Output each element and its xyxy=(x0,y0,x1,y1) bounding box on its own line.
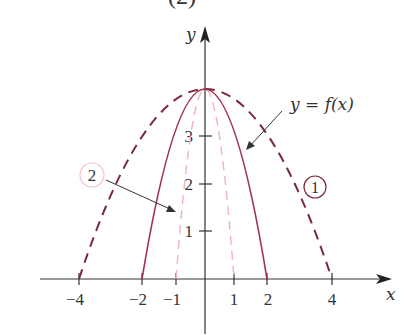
fx-pointer-line xyxy=(250,111,282,146)
xtick-label: −2 xyxy=(129,290,147,309)
ytick-label: 3 xyxy=(185,127,194,146)
circle-1-label: 1 xyxy=(311,179,319,196)
partial-header-label: (2) xyxy=(168,0,196,9)
x-tick-labels: −4 −2 −1 1 2 4 xyxy=(66,290,337,309)
chart: (2) −4 −2 −1 1 2 4 1 2 3 x y xyxy=(0,0,409,335)
xtick-label: −4 xyxy=(66,290,85,309)
x-axis-label: x xyxy=(386,284,396,304)
ytick-label: 1 xyxy=(185,222,194,241)
circle-2-pointer-arrow-icon xyxy=(166,205,176,212)
xtick-label: −1 xyxy=(163,290,181,309)
xtick-label: 2 xyxy=(264,290,273,309)
xtick-label: 1 xyxy=(230,290,239,309)
xtick-label: 4 xyxy=(328,290,337,309)
circle-2-label: 2 xyxy=(88,166,97,185)
fx-label: y = f(x) xyxy=(289,94,354,114)
ytick-label: 2 xyxy=(185,175,194,194)
y-axis-label: y xyxy=(185,24,196,44)
